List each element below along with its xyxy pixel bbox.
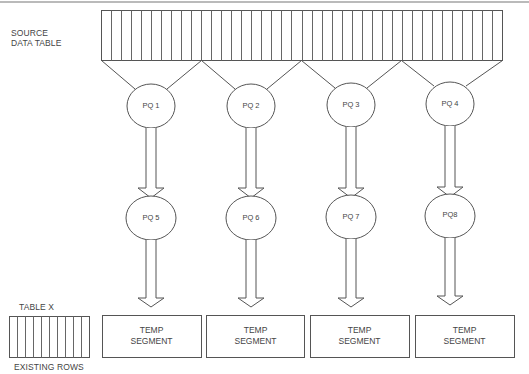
arrow-down-icon xyxy=(238,240,264,307)
temp-segment-1-label: TEMP SEGMENT xyxy=(102,325,201,347)
arrow-down-icon xyxy=(138,240,164,307)
arrows-row1 xyxy=(138,126,463,198)
pq3-label: PQ 3 xyxy=(331,100,371,109)
table-x-caption: EXISTING ROWS xyxy=(14,362,84,372)
temp-segment-3-line2: SEGMENT xyxy=(310,336,409,347)
temp-segment-4-line2: SEGMENT xyxy=(415,336,514,347)
arrow-down-icon xyxy=(338,239,364,307)
pq5-label: PQ 5 xyxy=(131,213,171,222)
temp-segment-3-label: TEMP SEGMENT xyxy=(310,325,409,347)
arrow-down-icon xyxy=(437,126,463,197)
pq4-label: PQ 4 xyxy=(430,99,470,108)
pq2-label: PQ 2 xyxy=(231,101,271,110)
temp-segment-2-line2: SEGMENT xyxy=(206,336,305,347)
arrow-down-icon xyxy=(238,128,264,198)
arrow-down-icon xyxy=(437,238,463,305)
temp-segment-4-label: TEMP SEGMENT xyxy=(415,325,514,347)
temp-segment-4-line1: TEMP xyxy=(415,325,514,336)
arrow-down-icon xyxy=(338,127,364,198)
arrow-down-icon xyxy=(138,128,164,198)
source-table-label-line1: SOURCE xyxy=(11,28,48,38)
pq8-label: PQ8 xyxy=(430,210,470,219)
temp-segment-2-label: TEMP SEGMENT xyxy=(206,325,305,347)
temp-segment-2-line1: TEMP xyxy=(206,325,305,336)
pq7-label: PQ 7 xyxy=(331,212,371,221)
temp-segment-1-line2: SEGMENT xyxy=(102,336,201,347)
source-table-label-line2: DATA TABLE xyxy=(11,38,61,48)
pq1-label: PQ 1 xyxy=(131,101,171,110)
table-x xyxy=(10,317,90,358)
arrows-row2 xyxy=(138,238,463,307)
source-data-table xyxy=(102,11,503,61)
diagram-canvas xyxy=(0,0,529,374)
temp-segment-1-line1: TEMP xyxy=(102,325,201,336)
table-x-title: TABLE X xyxy=(19,302,54,312)
temp-segment-3-line1: TEMP xyxy=(310,325,409,336)
pq6-label: PQ 6 xyxy=(231,213,271,222)
